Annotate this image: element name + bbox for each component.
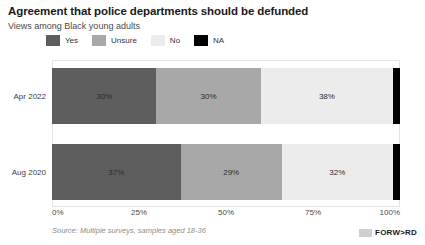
bar-segment-value-label: 38% xyxy=(319,92,335,101)
chart-subtitle: Views among Black young adults xyxy=(8,21,140,31)
x-axis-tick-label: 100% xyxy=(380,208,400,217)
legend-item-yes[interactable]: Yes xyxy=(46,35,78,46)
legend-swatch-icon xyxy=(151,35,165,46)
x-axis: 0%25%50%75%100% xyxy=(52,208,400,222)
y-axis-category-label: Aug 2020 xyxy=(12,168,46,177)
chart-legend: YesUnsureNoNA xyxy=(46,33,238,47)
bar-segment-na[interactable]: 2% xyxy=(393,68,400,124)
x-axis-tick-label: 75% xyxy=(305,208,321,217)
brand-logo: FORW>RD xyxy=(359,227,417,238)
x-axis-tick-label: 0% xyxy=(52,208,64,217)
bar-segment-na[interactable]: 2% xyxy=(393,144,400,200)
legend-item-label: NA xyxy=(213,36,224,45)
bar-segment-unsure[interactable]: 29% xyxy=(181,144,282,200)
plot-area: Apr 202230%30%38%2%Aug 202037%29%32%2% xyxy=(52,60,400,207)
legend-item-label: Yes xyxy=(65,36,78,45)
y-axis-category-label: Apr 2022 xyxy=(14,92,46,101)
bar-row: Aug 202037%29%32%2% xyxy=(52,144,400,200)
bar-segment-value-label: 32% xyxy=(329,168,345,177)
x-axis-tick-label: 50% xyxy=(218,208,234,217)
brand-name: FORW>RD xyxy=(375,228,417,237)
legend-swatch-icon xyxy=(92,35,106,46)
bar-segment-no[interactable]: 38% xyxy=(261,68,393,124)
bar-segment-no[interactable]: 32% xyxy=(282,144,393,200)
chart-container: Agreement that police departments should… xyxy=(0,0,425,245)
bar-segment-value-label: 30% xyxy=(201,92,217,101)
legend-item-unsure[interactable]: Unsure xyxy=(92,35,137,46)
bar-segment-yes[interactable]: 37% xyxy=(52,144,181,200)
legend-item-label: Unsure xyxy=(111,36,137,45)
square-logo-icon xyxy=(359,229,372,237)
bar-segment-yes[interactable]: 30% xyxy=(52,68,156,124)
legend-item-na[interactable]: NA xyxy=(194,35,224,46)
legend-swatch-icon xyxy=(194,35,208,46)
source-note: Source: Multiple surveys, samples aged 1… xyxy=(52,226,206,235)
bar-segment-value-label: 37% xyxy=(108,168,124,177)
legend-item-label: No xyxy=(170,36,180,45)
chart-title: Agreement that police departments should… xyxy=(8,5,308,17)
bar-segment-value-label: 30% xyxy=(96,92,112,101)
x-axis-tick-label: 25% xyxy=(131,208,147,217)
bar-row: Apr 202230%30%38%2% xyxy=(52,68,400,124)
legend-swatch-icon xyxy=(46,35,60,46)
legend-item-no[interactable]: No xyxy=(151,35,180,46)
bar-segment-unsure[interactable]: 30% xyxy=(156,68,260,124)
bar-segment-value-label: 29% xyxy=(223,168,239,177)
